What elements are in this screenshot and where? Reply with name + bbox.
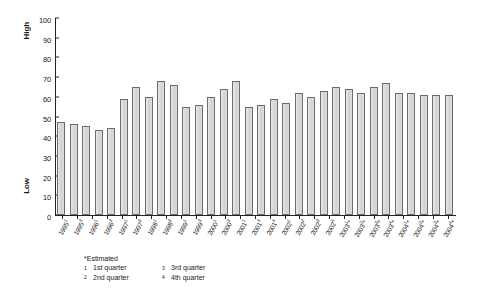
footnote-item: 3 3rd quarter (162, 263, 240, 273)
footnote-mark: 4 (162, 273, 171, 283)
x-axis-tick-label: 20033* (367, 219, 382, 238)
x-axis-tick-label: 20003 (220, 219, 234, 236)
bar (57, 122, 65, 215)
bar (232, 81, 240, 215)
bar (282, 103, 290, 215)
x-axis-tick-label: 19991 (176, 219, 190, 236)
x-axis-tick-label: 20021 (280, 219, 294, 236)
bar-chart: High Low 0102030405060708090100 *Estimat… (0, 0, 495, 307)
y-axis-tick-label: 70 (43, 75, 55, 84)
bar (220, 89, 228, 215)
x-axis-tick (344, 215, 345, 219)
x-axis-tick (403, 215, 404, 219)
y-axis-tick: 70 (43, 68, 55, 86)
footnote-item: 1 1st quarter (84, 263, 162, 273)
footnote-item: 4 4th quarter (162, 273, 240, 283)
bar (120, 99, 128, 215)
bar (207, 97, 215, 215)
x-axis-tick-label: 20032* (353, 219, 368, 238)
y-axis-tick-label: 50 (43, 115, 55, 124)
x-axis-tick-label: 20024 (324, 219, 338, 236)
bar (445, 95, 453, 215)
y-axis-tick: 20 (43, 167, 55, 185)
x-axis-tick-label: 20042* (412, 219, 427, 238)
bar (132, 87, 140, 215)
x-axis-tick-label: 19981 (146, 219, 160, 236)
y-axis-tick: 100 (39, 9, 55, 27)
footnote-mark: 1 (84, 263, 93, 273)
bar (295, 93, 303, 215)
bar (95, 130, 103, 215)
y-axis-tick: 10 (43, 186, 55, 204)
page-bottom-edge (0, 299, 495, 307)
y-axis-tick-label: 40 (43, 134, 55, 143)
footnote-estimated-text: Estimated (87, 254, 118, 263)
plot-area: 0102030405060708090100 (55, 18, 455, 215)
bar (182, 107, 190, 215)
footnote-text: 1st quarter (93, 263, 126, 273)
x-axis-tick-label: 20014 (265, 219, 279, 236)
footnote-text: 4th quarter (171, 273, 205, 283)
x-axis-tick-label: 20044* (441, 219, 456, 238)
bar (320, 91, 328, 215)
bar (82, 126, 90, 215)
bar (382, 83, 390, 215)
y-axis-tick-mark (55, 18, 59, 19)
x-axis-tick (418, 215, 419, 219)
y-axis-high-label: High (22, 22, 31, 39)
x-axis-tick-label: 19961 (87, 219, 101, 236)
x-axis-tick (374, 215, 375, 219)
bar (357, 93, 365, 215)
x-axis-tick-label: 20001 (206, 219, 220, 236)
x-axis-tick-label: 20022 (294, 219, 308, 236)
bar (395, 93, 403, 215)
x-axis-tick-label: 19973 (131, 219, 145, 236)
x-axis-tick-label: 20031* (338, 219, 353, 238)
footnote-row: 1 1st quarter 3 3rd quarter (84, 263, 240, 273)
y-axis-tick-label: 0 (47, 213, 55, 222)
x-axis-tick-label: 20013 (250, 219, 264, 236)
bar (157, 81, 165, 215)
y-axis-tick-mark (55, 57, 59, 58)
footnote-estimated-row: *Estimated (84, 254, 240, 263)
footnote-mark: 3 (162, 263, 171, 273)
bar (107, 128, 115, 215)
bar (70, 124, 78, 215)
y-axis-tick-label: 60 (43, 95, 55, 104)
x-axis-tick-label: 20023 (309, 219, 323, 236)
x-axis-tick-label: 20043* (427, 219, 442, 238)
y-axis-tick-mark (55, 96, 59, 97)
x-axis-tick-label: 20011 (235, 219, 249, 236)
y-axis-tick: 90 (43, 29, 55, 47)
y-axis-tick-mark (55, 77, 59, 78)
y-axis-tick-label: 30 (43, 154, 55, 163)
footnote-text: 2nd quarter (93, 273, 129, 283)
y-axis-tick-label: 100 (39, 16, 55, 25)
x-axis-tick-label: 19951 (57, 219, 71, 236)
bar (370, 87, 378, 215)
x-axis-tick (211, 215, 212, 219)
y-axis-tick-label: 10 (43, 193, 55, 202)
y-axis-tick-mark (55, 116, 59, 117)
x-axis-tick (433, 215, 434, 219)
bar (307, 97, 315, 215)
x-axis-tick-label: 19963 (102, 219, 116, 236)
footnote-text: 3rd quarter (171, 263, 205, 273)
x-axis-tick (448, 215, 449, 219)
y-axis-tick: 30 (43, 147, 55, 165)
y-axis-tick-label: 20 (43, 174, 55, 183)
bar (257, 105, 265, 215)
x-axis-tick-label: 19983 (161, 219, 175, 236)
x-axis-tick-label: 20034* (382, 219, 397, 238)
footnote-mark: 2 (84, 273, 93, 283)
y-axis-low-label: Low (22, 178, 31, 194)
x-axis-tick-label: 19971 (117, 219, 131, 236)
x-axis-tick-label: 20041* (397, 219, 412, 238)
footnote-estimated: *Estimated (84, 254, 162, 263)
y-axis-tick-mark (55, 37, 59, 38)
x-axis-tick (388, 215, 389, 219)
bar (270, 99, 278, 215)
x-axis-tick-label: 19953 (72, 219, 86, 236)
footnote-block: *Estimated 1 1st quarter 3 3rd quarter 2… (84, 254, 240, 283)
footnote-row: 2 2nd quarter 4 4th quarter (84, 273, 240, 283)
